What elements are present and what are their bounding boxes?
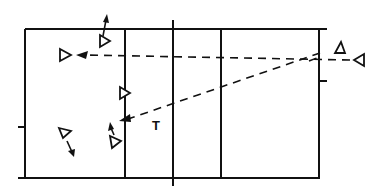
pass-path-to-line [128, 53, 320, 119]
arrowhead-lower-left-icon [68, 149, 75, 157]
player-triangle-icon[interactable] [110, 136, 121, 148]
t-label: T [152, 118, 160, 133]
arrowhead-top-icon [103, 14, 109, 23]
arrowhead-left-receiver-icon [76, 51, 88, 59]
serve-path-to-left-receiver [84, 55, 350, 60]
player-triangle-icon[interactable] [60, 49, 71, 61]
short-dash-upper-right [309, 56, 322, 61]
server-triangle-icon[interactable] [354, 54, 364, 66]
player-triangle-icon[interactable] [59, 128, 71, 138]
server-triangle-icon[interactable] [335, 42, 345, 53]
arrowhead-lower-mid-icon [108, 122, 114, 131]
ball-paths [76, 51, 350, 122]
player-triangle-icon[interactable] [100, 35, 110, 47]
movement-arrows [67, 14, 114, 157]
court-diagram: T [0, 0, 384, 195]
